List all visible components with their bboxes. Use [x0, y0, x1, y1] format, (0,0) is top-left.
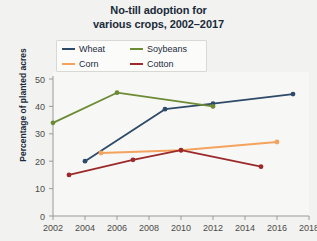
x-tick-label: 2002	[43, 223, 63, 233]
chart-legend: Wheat Soybeans Corn Cotton	[56, 40, 207, 72]
x-tick-label: 2004	[75, 223, 95, 233]
plot-area: 50 40 30 20 10 0 2002 2004 2006 2008 201…	[0, 0, 317, 241]
legend-swatch-soybeans	[130, 48, 143, 50]
legend-swatch-corn	[62, 63, 75, 65]
x-tick-label: 2006	[107, 223, 127, 233]
plot-background	[53, 72, 309, 216]
x-tick-label: 2018	[299, 223, 317, 233]
x-tick-label: 2008	[139, 223, 159, 233]
legend-label-soybeans: Soybeans	[147, 44, 187, 54]
x-axis-ticks	[53, 216, 309, 220]
y-tick-label: 0	[40, 212, 45, 222]
legend-label-wheat: Wheat	[79, 44, 105, 54]
chart-figure: No-till adoption for various crops, 2002…	[0, 0, 317, 241]
y-tick-label: 20	[35, 157, 45, 167]
y-tick-label: 30	[35, 129, 45, 139]
y-tick-label: 50	[35, 75, 45, 85]
legend-item-cotton: Cotton	[130, 59, 174, 69]
data-point	[259, 164, 264, 169]
y-axis-tick-labels: 50 40 30 20 10 0	[35, 75, 45, 222]
legend-item-wheat: Wheat	[62, 44, 130, 54]
data-point	[179, 148, 184, 153]
y-tick-label: 10	[35, 184, 45, 194]
data-point	[51, 120, 56, 125]
data-point	[115, 90, 120, 95]
y-tick-label: 40	[35, 102, 45, 112]
y-axis-ticks	[49, 79, 53, 216]
data-point	[131, 157, 136, 162]
legend-row-1: Wheat Soybeans	[57, 41, 206, 56]
x-tick-label: 2014	[235, 223, 255, 233]
data-point	[163, 107, 168, 112]
data-point	[211, 104, 216, 109]
legend-label-cotton: Cotton	[147, 59, 174, 69]
legend-swatch-cotton	[130, 63, 143, 65]
data-point	[291, 92, 296, 97]
y-axis-title: Percentage of planted acres	[18, 35, 28, 175]
legend-row-2: Corn Cotton	[57, 56, 206, 71]
x-tick-label: 2012	[203, 223, 223, 233]
legend-item-corn: Corn	[62, 59, 130, 69]
legend-item-soybeans: Soybeans	[130, 44, 187, 54]
data-point	[275, 140, 280, 145]
data-point	[83, 159, 88, 164]
x-tick-label: 2010	[171, 223, 191, 233]
data-point	[67, 173, 72, 178]
data-point	[99, 151, 104, 156]
legend-label-corn: Corn	[79, 59, 99, 69]
x-axis-tick-labels: 2002 2004 2006 2008 2010 2012 2014 2016 …	[43, 223, 317, 233]
legend-swatch-wheat	[62, 48, 75, 50]
x-tick-label: 2016	[267, 223, 287, 233]
